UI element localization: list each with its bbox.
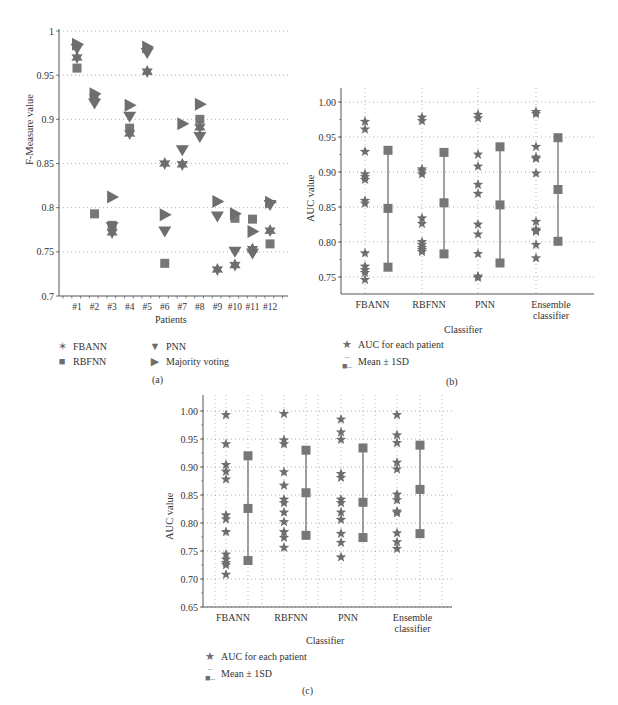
marker-auc (392, 464, 402, 474)
marker-auc (221, 409, 231, 419)
marker-auc (336, 434, 346, 444)
chart-c-plot: 0.650.700.750.800.850.900.951.00FBANNRBF… (0, 0, 618, 705)
svg-text:0.75: 0.75 (181, 546, 199, 557)
marker-auc (221, 569, 231, 579)
square-line-icon: –■– (203, 663, 217, 683)
marker-auc (392, 528, 402, 538)
marker-auc (221, 474, 231, 484)
legend-item-mean-sd: –■– Mean ± 1SD (203, 663, 272, 683)
svg-text:FBANN: FBANN (216, 612, 250, 623)
marker-auc (279, 532, 289, 542)
marker-auc (336, 528, 346, 538)
svg-text:1.00: 1.00 (181, 406, 199, 417)
marker-auc (336, 552, 346, 562)
star-icon: ★ (203, 650, 217, 663)
marker-auc (336, 472, 346, 482)
marker-auc (336, 537, 346, 547)
svg-text:0.65: 0.65 (181, 602, 199, 613)
marker-auc (221, 514, 231, 524)
figure: 0.70.750.80.850.90.951#1#2#3#4#5#6#7#8#9… (0, 0, 618, 705)
marker-auc (336, 514, 346, 524)
legend-label: Mean ± 1SD (221, 668, 272, 679)
svg-text:PNN: PNN (338, 612, 358, 623)
legend-label: AUC for each patient (221, 651, 307, 662)
svg-text:classifier: classifier (394, 623, 431, 634)
marker-auc (279, 408, 289, 418)
caption-c: (c) (302, 685, 313, 696)
chart-c-xlabel: Classifier (306, 635, 344, 646)
svg-text:0.85: 0.85 (181, 490, 199, 501)
marker-auc (279, 516, 289, 526)
chart-c-ylabel: AUC value (164, 492, 175, 540)
marker-auc (221, 527, 231, 537)
svg-text:0.80: 0.80 (181, 518, 199, 529)
legend-item-auc-patient: ★ AUC for each patient (203, 650, 307, 663)
svg-text:0.90: 0.90 (181, 462, 199, 473)
svg-text:0.70: 0.70 (181, 574, 199, 585)
marker-auc (279, 480, 289, 490)
svg-text:RBFNN: RBFNN (274, 612, 307, 623)
marker-auc (392, 437, 402, 447)
marker-auc (392, 409, 402, 419)
marker-auc (336, 414, 346, 424)
svg-text:0.95: 0.95 (181, 434, 199, 445)
svg-text:Ensemble: Ensemble (393, 612, 433, 623)
